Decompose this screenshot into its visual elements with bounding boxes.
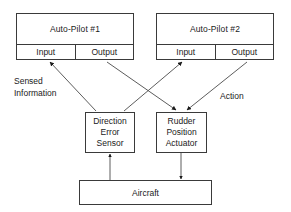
sensor-line-1: Direction <box>93 116 127 127</box>
sensed-information-line2: Information <box>14 87 57 99</box>
autopilot-1-box: Auto-Pilot #1 Input Output <box>16 13 134 60</box>
diagram-canvas: Auto-Pilot #1 Input Output Auto-Pilot #2… <box>0 0 291 212</box>
connector-ap2-output-to-actuator <box>187 62 247 110</box>
autopilot-2-box: Auto-Pilot #2 Input Output <box>156 13 274 60</box>
sensed-information-label: Sensed Information <box>14 75 57 99</box>
autopilot-2-input-cell: Input <box>157 45 215 59</box>
aircraft-box: Aircraft <box>79 180 212 205</box>
autopilot-2-title: Auto-Pilot #2 <box>157 14 273 44</box>
connector-sensor-to-ap1-input <box>50 62 96 111</box>
autopilot-1-output-cell: Output <box>75 45 134 59</box>
sensed-information-line1: Sensed <box>14 75 57 87</box>
sensor-line-2: Error <box>101 127 120 138</box>
rudder-position-actuator-box: Rudder Position Actuator <box>156 112 207 153</box>
autopilot-1-io-row: Input Output <box>17 44 133 59</box>
autopilot-2-output-cell: Output <box>215 45 274 59</box>
actuator-line-3: Actuator <box>166 138 198 149</box>
autopilot-1-input-cell: Input <box>17 45 75 59</box>
connector-sensor-to-ap2-input <box>124 62 182 111</box>
actuator-line-1: Rudder <box>168 116 196 127</box>
sensor-line-3: Sensor <box>97 138 124 149</box>
action-label: Action <box>220 90 244 102</box>
autopilot-2-io-row: Input Output <box>157 44 273 59</box>
connector-ap1-output-to-actuator <box>107 62 176 110</box>
aircraft-label: Aircraft <box>132 188 159 198</box>
actuator-line-2: Position <box>166 127 196 138</box>
autopilot-1-title: Auto-Pilot #1 <box>17 14 133 44</box>
direction-error-sensor-box: Direction Error Sensor <box>85 112 135 153</box>
